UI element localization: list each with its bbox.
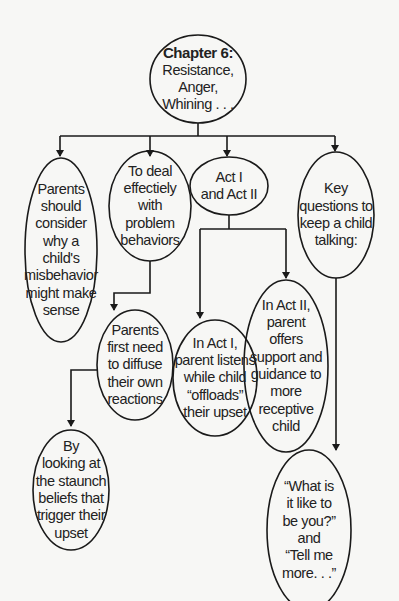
node-beliefs-text: By looking at the staunch beliefs that t… bbox=[36, 438, 107, 542]
root-subtitle: Resistance, Anger, Whining . . . bbox=[150, 62, 246, 114]
node-act2: In Act II, parent offers support and gui… bbox=[244, 280, 328, 452]
node-deal: To deal effectiely with problem behavior… bbox=[109, 151, 191, 261]
root-node: Chapter 6: Resistance, Anger, Whining . … bbox=[150, 35, 246, 123]
node-consider-text: Parents should consider why a child's mi… bbox=[24, 181, 98, 319]
node-diffuse: Parents first need to diffuse their own … bbox=[97, 310, 173, 420]
node-consider: Parents should consider why a child's mi… bbox=[25, 158, 97, 342]
root-title: Chapter 6: bbox=[150, 44, 246, 61]
node-acts-text: Act I and Act II bbox=[201, 169, 257, 204]
node-questions-text: Key questions to keep a child talking: bbox=[299, 180, 372, 249]
node-acts: Act I and Act II bbox=[190, 157, 268, 215]
node-diffuse-text: Parents first need to diffuse their own … bbox=[107, 322, 163, 408]
node-act2-text: In Act II, parent offers support and gui… bbox=[250, 297, 322, 435]
node-beliefs: By looking at the staunch beliefs that t… bbox=[33, 430, 109, 550]
node-quotes-text: “What is it like to be you?” and “Tell m… bbox=[282, 478, 336, 582]
node-quotes: “What is it like to be you?” and “Tell m… bbox=[267, 450, 351, 601]
node-questions: Key questions to keep a child talking: bbox=[298, 152, 374, 278]
node-deal-text: To deal effectiely with problem behavior… bbox=[120, 163, 179, 249]
